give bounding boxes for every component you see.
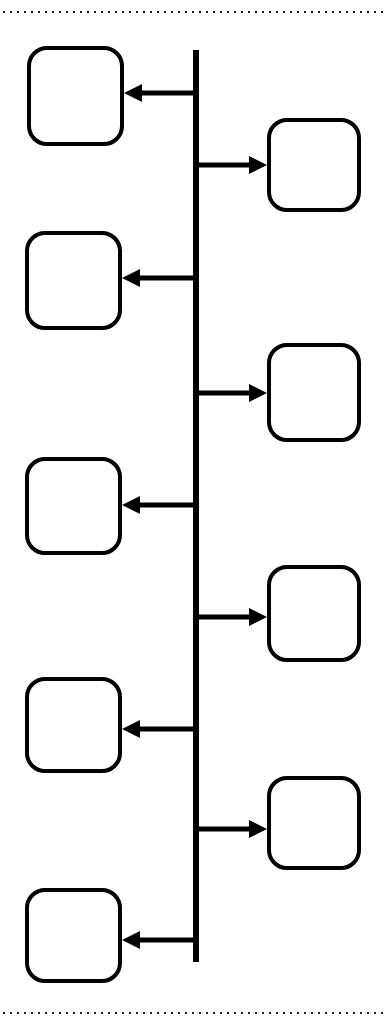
- node-8-box[interactable]: [269, 778, 359, 868]
- timeline-diagram: [0, 0, 387, 1029]
- arrow-to-left-node-9-shaft: [138, 938, 196, 943]
- diagram-canvas: [0, 0, 387, 1029]
- arrow-to-right-node-8-shaft: [196, 827, 251, 832]
- arrow-to-left-node-7-shaft: [138, 727, 196, 732]
- arrow-to-right-node-8-head: [249, 820, 267, 838]
- node-left-node-9[interactable]: [27, 890, 120, 981]
- arrow-to-left-node-5-head: [122, 496, 140, 514]
- node-3-box[interactable]: [27, 233, 120, 328]
- node-2-box[interactable]: [269, 120, 359, 210]
- arrow-to-right-node-2: [196, 156, 267, 174]
- arrow-to-left-node-1: [124, 84, 196, 102]
- arrow-to-left-node-9: [122, 931, 196, 949]
- arrow-to-left-node-3-head: [122, 269, 140, 287]
- arrow-to-right-node-6-shaft: [196, 615, 251, 620]
- node-left-node-5[interactable]: [27, 459, 120, 553]
- arrow-to-left-node-5: [122, 496, 196, 514]
- arrow-to-right-node-2-shaft: [196, 163, 251, 168]
- node-right-node-8[interactable]: [269, 778, 359, 868]
- node-9-box[interactable]: [27, 890, 120, 981]
- arrow-to-right-node-4-shaft: [196, 391, 251, 396]
- arrow-to-left-node-5-shaft: [138, 503, 196, 508]
- arrow-to-right-node-2-head: [249, 156, 267, 174]
- node-right-node-6[interactable]: [269, 567, 359, 660]
- arrow-to-left-node-3: [122, 269, 196, 287]
- arrow-to-right-node-4-head: [249, 384, 267, 402]
- arrow-to-left-node-7: [122, 720, 196, 738]
- node-4-box[interactable]: [269, 345, 359, 440]
- node-left-node-3[interactable]: [27, 233, 120, 328]
- node-1-box[interactable]: [29, 48, 122, 144]
- node-7-box[interactable]: [27, 679, 120, 771]
- node-left-node-1[interactable]: [29, 48, 122, 144]
- node-6-box[interactable]: [269, 567, 359, 660]
- arrow-to-right-node-8: [196, 820, 267, 838]
- arrow-to-right-node-6: [196, 608, 267, 626]
- node-5-box[interactable]: [27, 459, 120, 553]
- arrow-to-left-node-3-shaft: [138, 276, 196, 281]
- arrow-to-left-node-1-head: [124, 84, 142, 102]
- arrow-to-right-node-4: [196, 384, 267, 402]
- arrow-to-right-node-6-head: [249, 608, 267, 626]
- arrow-to-left-node-9-head: [122, 931, 140, 949]
- node-right-node-4[interactable]: [269, 345, 359, 440]
- arrow-to-left-node-1-shaft: [140, 91, 196, 96]
- arrow-to-left-node-7-head: [122, 720, 140, 738]
- node-left-node-7[interactable]: [27, 679, 120, 771]
- node-right-node-2[interactable]: [269, 120, 359, 210]
